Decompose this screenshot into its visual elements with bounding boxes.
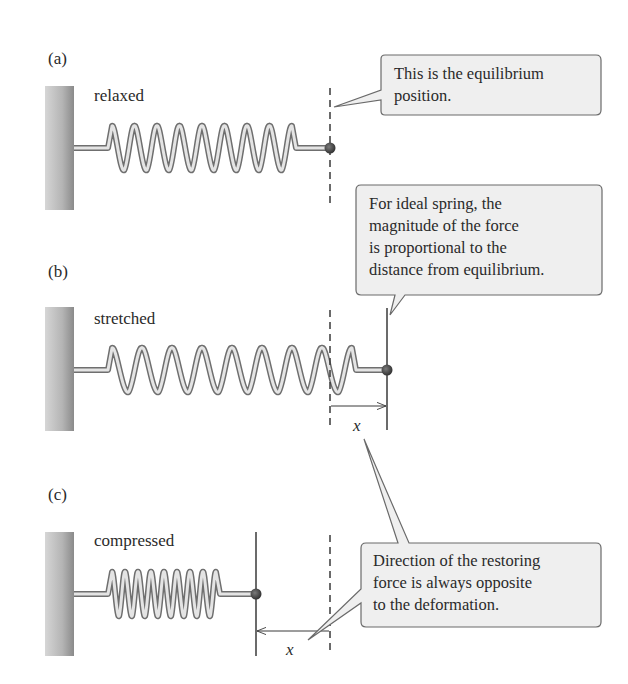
panel-c: (c) compressed x bbox=[45, 485, 330, 659]
callout-3-line-3: to the deformation. bbox=[373, 595, 499, 614]
mass-ball-a bbox=[325, 143, 336, 154]
spring-relaxed bbox=[74, 126, 327, 170]
wall-a bbox=[45, 86, 74, 210]
callout-equilibrium: This is the equilibrium position. bbox=[334, 55, 601, 115]
callout-1-line-2: position. bbox=[394, 86, 451, 105]
callout-2-line-3: is proportional to the bbox=[369, 238, 507, 257]
displacement-label-b: x bbox=[352, 416, 361, 435]
panel-label-c: (c) bbox=[48, 485, 67, 504]
callout-2-line-1: For ideal spring, the bbox=[369, 194, 502, 213]
mass-ball-b bbox=[382, 365, 393, 376]
panel-b: (b) stretched x bbox=[45, 262, 393, 435]
callout-1-line-1: This is the equilibrium bbox=[394, 64, 544, 83]
state-label-stretched: stretched bbox=[94, 309, 156, 328]
wall-b bbox=[45, 307, 74, 431]
wall-c bbox=[45, 532, 74, 656]
panel-label-a: (a) bbox=[48, 49, 67, 68]
mass-ball-c bbox=[251, 589, 262, 600]
callout-2-line-2: magnitude of the force bbox=[369, 216, 519, 235]
callout-3-line-1: Direction of the restoring bbox=[373, 551, 540, 570]
state-label-compressed: compressed bbox=[94, 531, 175, 550]
displacement-label-c: x bbox=[285, 640, 294, 659]
callout-3-line-2: force is always opposite bbox=[373, 573, 532, 592]
state-label-relaxed: relaxed bbox=[94, 86, 145, 105]
callout-proportional: For ideal spring, the magnitude of the f… bbox=[356, 185, 602, 315]
panel-a: (a) relaxed bbox=[45, 49, 336, 210]
spring-compressed bbox=[74, 572, 253, 616]
callout-2-line-4: distance from equilibrium. bbox=[369, 260, 545, 279]
spring-force-diagram: (a) relaxed This is the equilibrium posi… bbox=[0, 0, 628, 684]
callout-direction: Direction of the restoring force is alwa… bbox=[308, 439, 601, 640]
spring-stretched bbox=[74, 348, 384, 392]
panel-label-b: (b) bbox=[48, 262, 68, 281]
